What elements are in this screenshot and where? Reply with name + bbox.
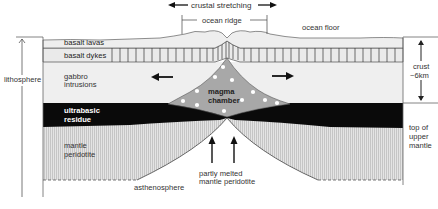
label-crust-1: crust bbox=[413, 62, 429, 71]
label-crust-2: ~6km bbox=[410, 71, 429, 80]
label-magma-1: magma bbox=[208, 87, 235, 96]
label-top-mantle-3: mantle bbox=[409, 141, 432, 150]
lithosphere-arrow-icon bbox=[19, 39, 25, 197]
label-gabbro-2: intrusions bbox=[64, 80, 97, 89]
label-top-mantle-2: upper bbox=[409, 132, 428, 141]
label-lithosphere: lithosphere bbox=[4, 75, 41, 84]
label-ultrabasic-2: residue bbox=[64, 115, 91, 124]
label-ocean-ridge: ocean ridge bbox=[202, 16, 242, 25]
label-magma-2: chamber bbox=[208, 96, 240, 105]
label-mantle-2: peridotite bbox=[64, 150, 95, 159]
label-partly-melted-2: mantle peridotite bbox=[199, 177, 255, 186]
upwelling-arrows-icon bbox=[209, 136, 238, 163]
label-ocean-floor: ocean floor bbox=[302, 23, 340, 32]
label-ultrabasic-1: ultrabasic bbox=[64, 106, 100, 115]
label-mantle-1: mantle bbox=[64, 141, 87, 150]
label-asthenosphere: asthenosphere bbox=[134, 183, 184, 192]
label-basalt-lavas: basalt lavas bbox=[64, 38, 104, 47]
label-top-mantle-1: top of bbox=[409, 123, 428, 132]
label-basalt-dykes: basalt dykes bbox=[64, 51, 106, 60]
label-crustal-stretching: crustal stretching bbox=[191, 1, 251, 10]
